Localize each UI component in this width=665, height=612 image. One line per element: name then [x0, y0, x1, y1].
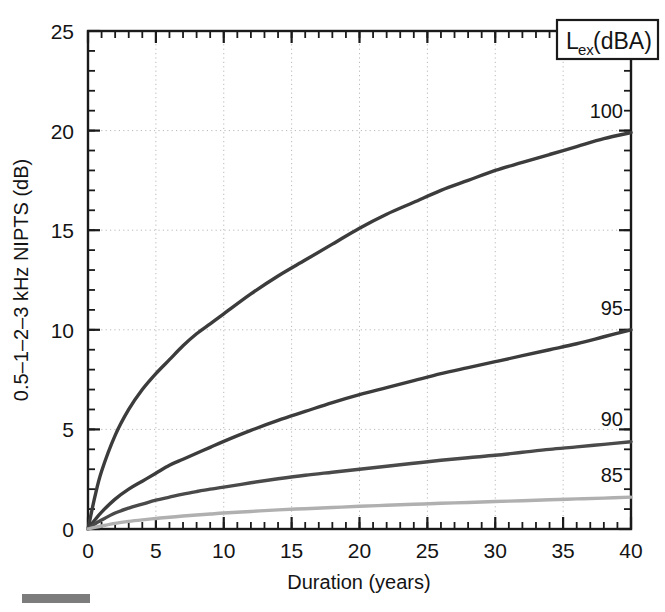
- x-tick-label: 25: [416, 539, 439, 562]
- y-axis-title: 0.5–1–2–3 kHz NIPTS (dB): [10, 159, 32, 401]
- y-tick-label: 5: [62, 418, 74, 441]
- nipts-duration-line-chart: 100959085 0510152025303540 0510152025 Du…: [0, 0, 665, 612]
- series-label-85: 85: [601, 464, 623, 486]
- y-tick-label: 25: [51, 20, 74, 43]
- scale-bar: [22, 594, 90, 603]
- x-tick-label: 5: [150, 539, 162, 562]
- y-tick-label: 10: [51, 319, 74, 342]
- x-tick-label: 20: [348, 539, 371, 562]
- x-tick-label: 35: [551, 539, 574, 562]
- x-axis-title: Duration (years): [287, 571, 430, 593]
- x-tick-label: 0: [82, 539, 94, 562]
- x-tick-label: 15: [280, 539, 303, 562]
- legend-title-box: L ex (dBA): [557, 20, 658, 59]
- legend-title-units: (dBA): [593, 28, 652, 54]
- x-tick-label: 40: [619, 539, 642, 562]
- x-tick-label: 30: [484, 539, 507, 562]
- y-tick-label: 0: [62, 518, 74, 541]
- x-tick-label: 10: [212, 539, 235, 562]
- series-label-95: 95: [601, 297, 623, 319]
- series-label-100: 100: [590, 100, 623, 122]
- chart-figure: 100959085 0510152025303540 0510152025 Du…: [0, 0, 665, 612]
- y-tick-label: 20: [51, 120, 74, 143]
- legend-title-subscript: ex: [578, 41, 594, 58]
- series-label-90: 90: [601, 408, 623, 430]
- y-tick-label: 15: [51, 219, 74, 242]
